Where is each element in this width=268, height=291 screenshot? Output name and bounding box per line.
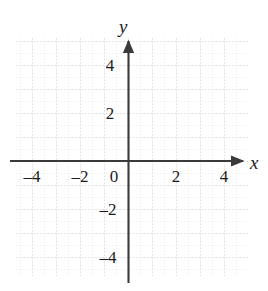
y-tick-label-minus-4: –4 (94, 249, 122, 266)
y-tick-label-minus-2: –2 (94, 201, 122, 218)
origin-label-zero: 0 (102, 168, 126, 185)
x-tick-label-4: 4 (210, 168, 238, 185)
grid-lines (14, 38, 248, 278)
y-tick-label-4: 4 (98, 57, 122, 74)
coordinate-grid-svg (0, 0, 268, 291)
x-axis-name-label: x (250, 153, 258, 172)
x-tick-label-minus-4: –4 (18, 168, 46, 185)
coordinate-plane-figure: –4 –2 2 4 0 4 2 –2 –4 x y (0, 0, 268, 291)
x-tick-label-2: 2 (162, 168, 190, 185)
y-tick-label-2: 2 (98, 105, 122, 122)
x-tick-label-minus-2: –2 (66, 168, 94, 185)
y-axis-name-label: y (119, 17, 127, 36)
